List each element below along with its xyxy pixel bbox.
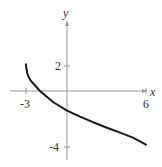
y-axis-label: y (62, 6, 69, 20)
y-tick-label-neg4: -4 (49, 140, 59, 154)
y-axis-arrow-icon (65, 20, 69, 26)
x-tick-label-neg3: -3 (20, 97, 30, 111)
function-graph: x y -3 6 2 -4 (0, 0, 162, 167)
y-tick-label-2: 2 (55, 59, 61, 73)
function-curve (26, 64, 146, 144)
x-axis-label: x (149, 85, 156, 99)
x-tick-label-6: 6 (143, 97, 149, 111)
x-axis-arrow-icon (142, 89, 148, 93)
